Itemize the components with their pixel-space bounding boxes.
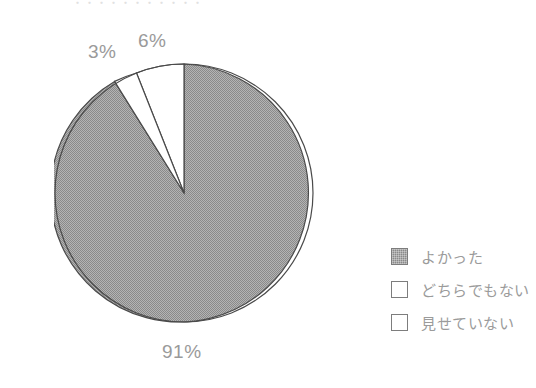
legend-swatch-icon <box>391 281 408 298</box>
cut-off-caption: ・・・・・・・・・・・ <box>72 0 204 10</box>
legend-item-label: よかった <box>421 246 483 267</box>
legend-item-dochirademonai: どちらでもない <box>391 273 536 306</box>
chart-legend: よかった どちらでもない 見せていない <box>391 240 536 339</box>
legend-item-label: どちらでもない <box>421 279 530 300</box>
legend-item-yokatta: よかった <box>391 240 536 273</box>
pie-chart-figure: ・・・・・・・・・・・ 6% 3% 91% よかった <box>0 0 536 388</box>
pie-svg <box>54 63 314 323</box>
slice-label-6-percent: 6% <box>138 30 166 52</box>
legend-swatch-icon <box>391 248 408 265</box>
slice-label-3-percent: 3% <box>88 41 116 63</box>
pie-chart-plot-area <box>54 63 314 323</box>
slice-label-91-percent: 91% <box>162 341 202 363</box>
legend-item-label: 見せていない <box>421 312 514 333</box>
legend-swatch-icon <box>391 314 408 331</box>
legend-item-misete-inai: 見せていない <box>391 306 536 339</box>
